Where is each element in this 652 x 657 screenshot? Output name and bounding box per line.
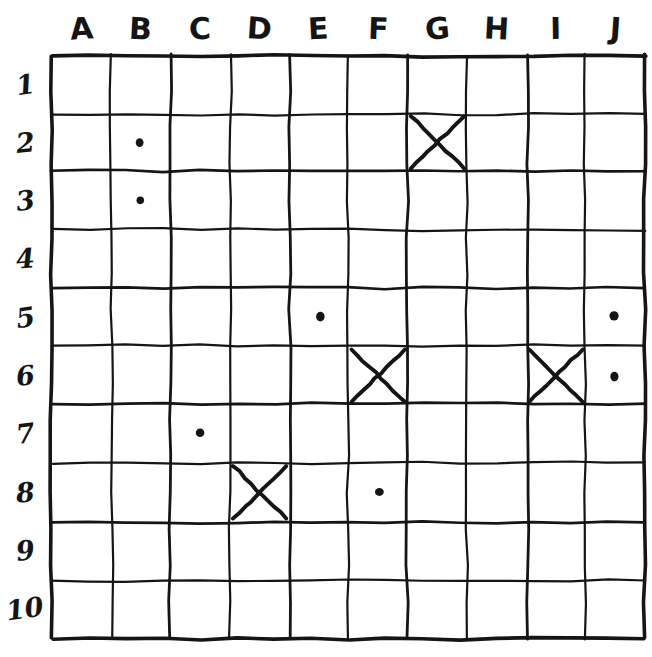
grid-cell-i2[interactable] [526,113,585,171]
grid-cell-e3[interactable] [289,172,348,230]
grid-cell-h5[interactable] [467,288,526,346]
grid-cell-g2[interactable] [408,113,467,171]
grid-cell-i9[interactable] [526,521,585,579]
grid-cell-f2[interactable] [349,113,408,171]
grid-cell-j10[interactable] [586,580,645,638]
grid-cell-g7[interactable] [408,405,467,463]
grid-cell-f7[interactable] [349,405,408,463]
grid-cell-e8[interactable] [289,463,348,521]
grid-cell-c8[interactable] [171,463,230,521]
grid-cell-j3[interactable] [586,172,645,230]
grid-cell-a1[interactable] [52,55,111,113]
grid-cell-i4[interactable] [526,230,585,288]
grid-cell-j2[interactable] [586,113,645,171]
grid-cell-h9[interactable] [467,521,526,579]
grid-cell-d2[interactable] [230,113,289,171]
grid-cell-c1[interactable] [171,55,230,113]
grid-cell-d1[interactable] [230,55,289,113]
grid-cell-d4[interactable] [230,230,289,288]
grid-cell-h4[interactable] [467,230,526,288]
grid-cell-c7[interactable] [171,405,230,463]
grid-cell-g9[interactable] [408,521,467,579]
grid-cell-f8[interactable] [349,463,408,521]
grid-cell-c10[interactable] [171,580,230,638]
grid-cell-h7[interactable] [467,405,526,463]
grid-cell-f4[interactable] [349,230,408,288]
grid-cell-f3[interactable] [349,172,408,230]
grid-cell-g3[interactable] [408,172,467,230]
grid-cell-g8[interactable] [408,463,467,521]
grid-cell-c9[interactable] [171,521,230,579]
grid-cell-g6[interactable] [408,347,467,405]
grid-cell-a8[interactable] [52,463,111,521]
grid-cell-f6[interactable] [349,347,408,405]
grid-cell-h10[interactable] [467,580,526,638]
grid-cell-i8[interactable] [526,463,585,521]
grid-cell-f9[interactable] [349,521,408,579]
grid-cell-f1[interactable] [349,55,408,113]
grid-cell-a6[interactable] [52,347,111,405]
grid-cell-e9[interactable] [289,521,348,579]
grid-cell-b2[interactable] [111,113,170,171]
grid-cell-j6[interactable] [586,347,645,405]
grid-cell-h8[interactable] [467,463,526,521]
grid-cell-g10[interactable] [408,580,467,638]
grid-cell-a2[interactable] [52,113,111,171]
grid-cell-b9[interactable] [111,521,170,579]
grid-cell-d6[interactable] [230,347,289,405]
grid-cell-b6[interactable] [111,347,170,405]
grid-cell-g1[interactable] [408,55,467,113]
grid-cell-b4[interactable] [111,230,170,288]
grid-cell-c2[interactable] [171,113,230,171]
grid-cell-c3[interactable] [171,172,230,230]
grid-cell-g5[interactable] [408,288,467,346]
grid-cell-g4[interactable] [408,230,467,288]
grid-cell-f10[interactable] [349,580,408,638]
grid-cell-d9[interactable] [230,521,289,579]
grid-cell-b3[interactable] [111,172,170,230]
grid-cell-d3[interactable] [230,172,289,230]
grid-cell-c5[interactable] [171,288,230,346]
grid-cell-i10[interactable] [526,580,585,638]
grid-cell-a10[interactable] [52,580,111,638]
grid-cell-i7[interactable] [526,405,585,463]
grid-cell-d10[interactable] [230,580,289,638]
grid-cell-j9[interactable] [586,521,645,579]
grid-cell-b5[interactable] [111,288,170,346]
grid-cell-e7[interactable] [289,405,348,463]
grid-cell-e10[interactable] [289,580,348,638]
grid-cell-e2[interactable] [289,113,348,171]
grid-cell-d7[interactable] [230,405,289,463]
grid-cell-j7[interactable] [586,405,645,463]
grid-cell-h3[interactable] [467,172,526,230]
grid-cell-i6[interactable] [526,347,585,405]
grid-cell-a3[interactable] [52,172,111,230]
grid-cell-h2[interactable] [467,113,526,171]
grid-cell-j5[interactable] [586,288,645,346]
grid-cell-a4[interactable] [52,230,111,288]
grid-cell-i5[interactable] [526,288,585,346]
grid-cell-b8[interactable] [111,463,170,521]
grid-cell-h1[interactable] [467,55,526,113]
grid-cell-e6[interactable] [289,347,348,405]
grid-cell-a5[interactable] [52,288,111,346]
grid-cell-j1[interactable] [586,55,645,113]
grid-cell-j8[interactable] [586,463,645,521]
grid-cell-e1[interactable] [289,55,348,113]
grid-cell-e4[interactable] [289,230,348,288]
grid-cell-d5[interactable] [230,288,289,346]
grid-cell-a9[interactable] [52,521,111,579]
grid-cell-b10[interactable] [111,580,170,638]
grid-cell-b1[interactable] [111,55,170,113]
grid-cell-h6[interactable] [467,347,526,405]
grid-cell-i3[interactable] [526,172,585,230]
grid-cell-f5[interactable] [349,288,408,346]
grid-cell-c4[interactable] [171,230,230,288]
grid-cell-c6[interactable] [171,347,230,405]
grid-cell-d8[interactable] [230,463,289,521]
grid-cell-j4[interactable] [586,230,645,288]
grid-cell-a7[interactable] [52,405,111,463]
grid-cell-i1[interactable] [526,55,585,113]
grid-cell-b7[interactable] [111,405,170,463]
grid-cell-e5[interactable] [289,288,348,346]
